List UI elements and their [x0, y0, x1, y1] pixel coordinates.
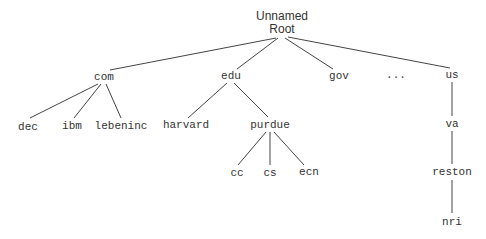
dns-tree-diagram: Unnamed Root com edu gov ... us dec ibm … — [0, 0, 486, 239]
node-com: com — [94, 71, 114, 83]
edge-purdue-cc — [238, 132, 266, 165]
node-cc: cc — [230, 167, 243, 179]
node-harvard: harvard — [163, 119, 209, 131]
node-ecn: ecn — [299, 166, 319, 178]
edge-root-edu — [237, 38, 278, 69]
node-nri: nri — [442, 216, 462, 228]
node-va: va — [445, 118, 458, 130]
edge-edu-purdue — [234, 83, 268, 117]
node-ibm: ibm — [62, 120, 82, 132]
node-ellipsis: ... — [386, 69, 406, 81]
node-dec: dec — [18, 121, 38, 133]
node-us: us — [445, 69, 458, 81]
edge-purdue-ecn — [274, 132, 304, 165]
node-cs: cs — [263, 167, 276, 179]
node-root: Unnamed Root — [256, 10, 308, 36]
root-label-line2: Root — [256, 23, 308, 36]
node-edu: edu — [221, 70, 241, 82]
node-purdue: purdue — [250, 119, 290, 131]
edge-root-com — [110, 38, 276, 70]
node-lebeninc: lebeninc — [95, 120, 148, 132]
edge-com-lebeninc — [106, 84, 121, 118]
edge-edu-harvard — [188, 83, 227, 118]
node-gov: gov — [329, 70, 349, 82]
node-reston: reston — [432, 166, 472, 178]
edge-root-us — [288, 37, 450, 68]
edge-root-gov — [285, 38, 333, 69]
